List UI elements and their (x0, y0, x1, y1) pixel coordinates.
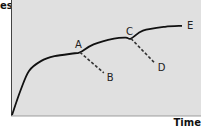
point-label-c: C (126, 26, 133, 37)
point-label-d: D (158, 62, 166, 73)
plot-background (11, 0, 201, 116)
point-label-b: B (107, 72, 114, 83)
sales-curve-diagram: ABCDE (0, 0, 203, 129)
point-label-a: A (75, 39, 82, 50)
point-label-e: E (187, 20, 193, 31)
